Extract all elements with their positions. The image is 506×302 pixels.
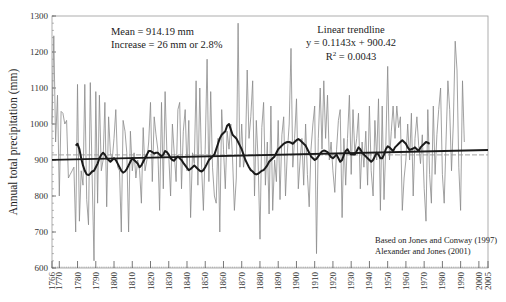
x-tick-label: 1770 [54, 272, 64, 291]
trend-equation: y = 0.1143x + 900.42 [306, 37, 396, 48]
x-tick-label: 1930 [346, 272, 356, 291]
x-tick-label: 1950 [383, 272, 393, 291]
x-tick-label: 2005 [483, 272, 493, 291]
precipitation-chart: 6007008009001000110012001300 17661770178… [0, 0, 506, 302]
x-tick-label: 1850 [200, 272, 210, 291]
x-tick-label: 1860 [218, 272, 228, 291]
y-tick-label: 1300 [30, 11, 49, 21]
x-tick-label: 1970 [419, 272, 429, 291]
trend-title: Linear trendline [317, 24, 385, 35]
increase-annotation: Increase = 26 mm or 2.8% [111, 39, 223, 50]
x-tick-label: 1840 [182, 272, 192, 291]
y-tick-label: 700 [35, 227, 49, 237]
x-tick-label: 1780 [73, 272, 83, 291]
y-tick-label: 1200 [30, 47, 49, 57]
x-tick-label: 1920 [328, 272, 338, 291]
y-tick-label: 900 [35, 155, 49, 165]
y-axis-label: Annual total precipitation (mm) [7, 69, 20, 216]
x-tick-label: 1960 [401, 272, 411, 291]
x-tick-label: 1900 [291, 272, 301, 291]
x-tick-label: 1910 [310, 272, 320, 291]
mean-annotation: Mean = 914.19 mm [111, 26, 194, 37]
source-line-1: Based on Jones and Conway (1997) [375, 235, 497, 245]
x-tick-label: 1830 [164, 272, 174, 291]
x-tick-label: 1790 [91, 272, 101, 291]
x-tick-label: 1980 [437, 272, 447, 291]
r-squared-prefix: R [326, 51, 333, 62]
x-tick-label: 1810 [127, 272, 137, 291]
x-tick-label: 1890 [273, 272, 283, 291]
y-tick-label: 800 [35, 191, 49, 201]
r-squared-value: = 0.0043 [336, 51, 376, 62]
x-tick-label: 1940 [364, 272, 374, 291]
source-line-2: Alexander and Jones (2001) [375, 246, 471, 256]
x-tick-label: 1870 [237, 272, 247, 291]
y-tick-label: 1000 [30, 119, 49, 129]
x-tick-label: 1800 [109, 272, 119, 291]
x-tick-label: 1990 [456, 272, 466, 291]
x-tick-label: 1820 [146, 272, 156, 291]
y-tick-label: 600 [35, 263, 49, 273]
y-tick-label: 1100 [30, 83, 48, 93]
x-tick-label: 1880 [255, 272, 265, 291]
